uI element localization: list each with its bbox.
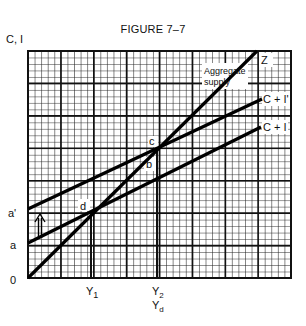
point-b-label: b [146,158,152,170]
chart-canvas: C, I [0,0,306,326]
a-prime-label: a' [8,207,16,219]
a-label: a [10,239,17,251]
aggregate-supply-label-1: Aggregate [204,66,246,76]
z-label: Z [261,54,268,66]
x-axis-label-yd: Yd [152,299,164,314]
point-d-label: d [80,200,86,212]
aggregate-supply-label-2: supply [204,77,231,87]
plot-grid [28,51,291,278]
origin-label: 0 [10,274,16,286]
y2-label: Y2 [152,285,164,300]
y1-label: Y1 [86,285,98,300]
c-plus-i-prime-label: C + I' [263,93,289,105]
point-c-label: c [149,135,155,147]
c-plus-i-label: C + I [263,121,287,133]
y-axis-label: C, I [6,33,23,45]
